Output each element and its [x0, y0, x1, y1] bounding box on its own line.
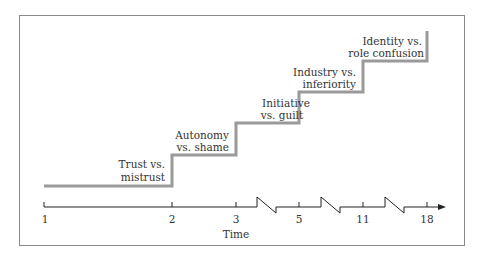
stage-label: Trust vs.: [119, 158, 165, 170]
tick-label: 18: [420, 213, 433, 225]
tick-label: 5: [296, 213, 303, 225]
stage-label: Industry vs.: [293, 66, 356, 78]
stage-label: vs. shame: [175, 141, 229, 153]
stage-label: Initiative: [262, 97, 310, 109]
stage-label: inferiority: [303, 78, 357, 90]
stage-label: Identity vs.: [362, 35, 422, 47]
stage-diagram: 1 2 3 5 11 18 Time Trust vs. mistrust Au…: [0, 0, 481, 260]
tick-label: 3: [233, 213, 240, 225]
tick-label: 2: [169, 213, 176, 225]
stage-label: mistrust: [121, 171, 166, 183]
time-axis: [44, 197, 438, 213]
axis-ticks: [44, 202, 427, 207]
axis-label: Time: [223, 228, 250, 240]
tick-label: 1: [42, 213, 49, 225]
tick-label: 11: [356, 213, 369, 225]
axis-arrow-icon: [438, 204, 446, 210]
stage-label: role confusion: [348, 47, 424, 59]
stage-label: vs. guilt: [260, 109, 304, 121]
stage-label: Autonomy: [174, 129, 229, 141]
